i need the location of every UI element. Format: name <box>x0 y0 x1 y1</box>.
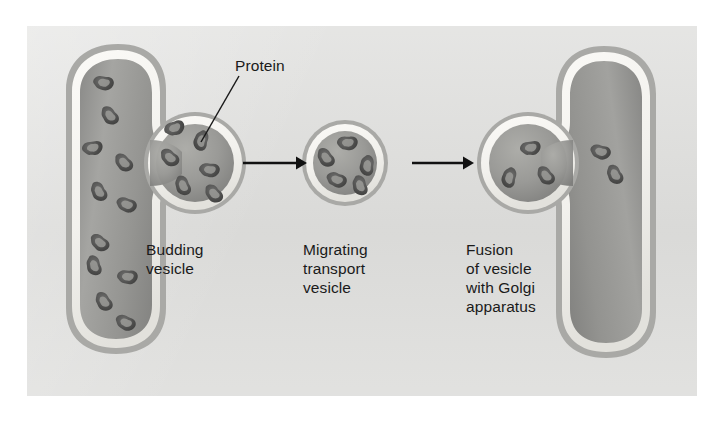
figure-stage: Protein Budding vesicle Migrating transp… <box>0 0 720 423</box>
diagram-canvas <box>0 0 720 423</box>
label-migrating-transport-vesicle: Migrating transport vesicle <box>303 240 368 297</box>
migrating-transport-vesicle <box>302 120 388 206</box>
arrow-2 <box>412 157 474 170</box>
label-budding-vesicle: Budding vesicle <box>146 240 204 278</box>
label-protein: Protein <box>235 56 285 75</box>
arrow-1 <box>243 157 307 170</box>
fusing-vesicle <box>477 112 579 214</box>
budding-vesicle <box>144 112 246 214</box>
label-fusion-with-golgi: Fusion of vesicle with Golgi apparatus <box>466 240 536 316</box>
